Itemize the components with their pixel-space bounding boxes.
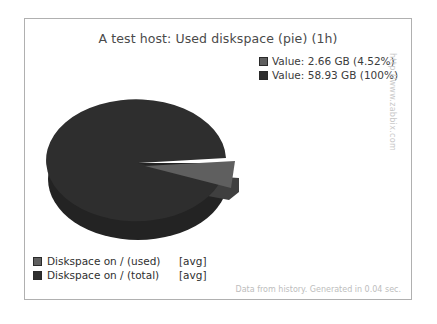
item-swatch-total bbox=[33, 271, 42, 280]
pie-chart bbox=[33, 71, 263, 251]
item-legend-row: Diskspace on / (used) [avg] bbox=[33, 255, 207, 267]
item-legend: Diskspace on / (used) [avg] Diskspace on… bbox=[33, 255, 207, 281]
item-legend-func-total: [avg] bbox=[179, 269, 207, 281]
legend-swatch-used bbox=[259, 57, 268, 66]
item-swatch-used bbox=[33, 257, 42, 266]
zabbix-watermark: http://www.zabbix.com bbox=[388, 53, 397, 151]
value-legend-label-total: Value: 58.93 GB (100%) bbox=[272, 69, 398, 81]
item-legend-func-used: [avg] bbox=[179, 255, 207, 267]
chart-title: A test host: Used diskspace (pie) (1h) bbox=[25, 31, 411, 46]
item-legend-name-total: Diskspace on / (total) bbox=[47, 269, 179, 281]
value-legend-row: Value: 58.93 GB (100%) bbox=[259, 69, 398, 81]
pie-slice-total bbox=[46, 99, 226, 221]
value-legend-label-used: Value: 2.66 GB (4.52%) bbox=[272, 55, 395, 67]
pie-chart-svg bbox=[33, 71, 263, 251]
graph-frame: A test host: Used diskspace (pie) (1h) V… bbox=[24, 18, 412, 300]
item-legend-name-used: Diskspace on / (used) bbox=[47, 255, 179, 267]
item-legend-row: Diskspace on / (total) [avg] bbox=[33, 269, 207, 281]
value-legend: Value: 2.66 GB (4.52%) Value: 58.93 GB (… bbox=[259, 55, 398, 81]
value-legend-row: Value: 2.66 GB (4.52%) bbox=[259, 55, 398, 67]
footer-note: Data from history. Generated in 0.04 sec… bbox=[236, 285, 401, 294]
